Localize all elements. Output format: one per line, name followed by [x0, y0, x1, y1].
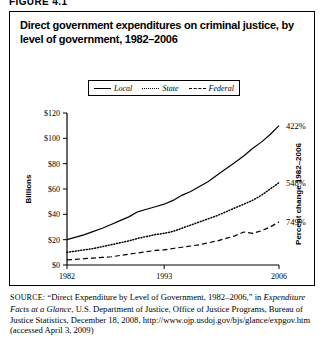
plot-area: $0$20$40$60$80$100$120 198219932006 422%… — [9, 11, 315, 286]
percent-change-label-local: 422% — [286, 121, 306, 131]
y-axis-right-title: Percent change 1982–2006 — [294, 143, 303, 245]
y-tick-label: $0 — [52, 261, 60, 270]
source-prefix: SOURCE: — [10, 293, 45, 302]
source-note: SOURCE: “Direct Expenditure by Level of … — [10, 292, 318, 336]
x-tick-label: 1993 — [156, 272, 172, 281]
line-chart-svg: $0$20$40$60$80$100$120 198219932006 422%… — [9, 11, 315, 286]
source-part1: “Direct Expenditure by Level of Governme… — [45, 292, 263, 302]
y-tick-label: $80 — [48, 160, 60, 169]
y-axis-title: Billions — [24, 174, 33, 203]
y-tick-label: $60 — [48, 185, 60, 194]
y-tick-label: $100 — [44, 134, 60, 143]
data-series-group — [67, 126, 279, 260]
figure-number: FIGURE 4.1 — [9, 0, 67, 7]
y-tick-label: $20 — [48, 236, 60, 245]
x-tick-label: 2006 — [271, 272, 287, 281]
series-line-state — [67, 183, 279, 253]
x-tick-label: 1982 — [59, 272, 75, 281]
y-tick-label: $40 — [48, 210, 60, 219]
series-line-federal — [67, 222, 279, 260]
x-axis-ticks: 198219932006 — [59, 265, 287, 281]
y-axis-ticks: $0$20$40$60$80$100$120 — [44, 109, 67, 270]
figure-container: FIGURE 4.1 Direct government expenditure… — [0, 0, 326, 355]
series-line-local — [67, 126, 279, 240]
y-tick-label: $120 — [44, 109, 60, 118]
